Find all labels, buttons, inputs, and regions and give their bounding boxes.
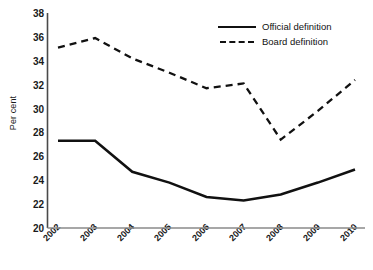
series-line-official-definition (58, 141, 355, 201)
legend-item-board-definition: Board definition (218, 34, 332, 49)
legend-item-official-definition: Official definition (218, 19, 332, 34)
legend-swatch-dashed-line-icon (218, 37, 256, 47)
series-line-board-definition (58, 38, 355, 140)
legend-label-official-definition: Official definition (262, 21, 332, 32)
chart-legend: Official definition Board definition (218, 19, 332, 49)
legend-swatch-solid-line-icon (218, 22, 256, 32)
legend-label-board-definition: Board definition (262, 36, 328, 47)
line-chart: Per cent 20222426283032343638 2002200320… (0, 0, 373, 270)
